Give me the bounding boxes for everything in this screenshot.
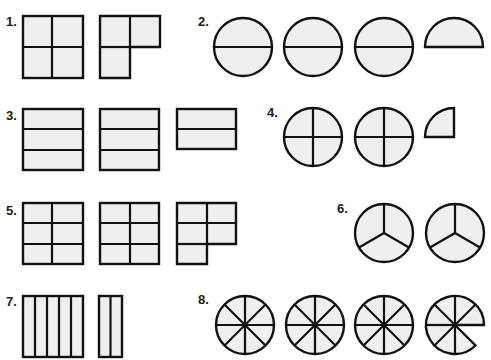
- problem-6-circle-thirds-1: [355, 204, 413, 262]
- problem-8-seven-eighths: [426, 296, 484, 354]
- problem-8-circle-eighths-3: [355, 296, 413, 354]
- problem-1-three-fourths: [100, 16, 160, 78]
- problem-3-two-thirds: [177, 109, 236, 149]
- problem-3-rect-thirds-1: [23, 109, 83, 170]
- problem-5-square-sixths-2: [100, 203, 159, 264]
- problem-5-square-sixths-1: [23, 203, 83, 264]
- fraction-worksheet: [0, 0, 491, 360]
- problem-4-circle-fourths-2: [355, 108, 413, 166]
- problem-8-circle-eighths-2: [286, 296, 344, 354]
- problem-7-rect-fifths: [23, 296, 83, 357]
- problem-6-circle-thirds-2: [426, 204, 484, 262]
- problem-5-five-sixths: [177, 203, 236, 264]
- problem-2-circle-halves-3: [355, 18, 413, 76]
- problem-4-quarter-circle: [425, 108, 454, 137]
- problem-4-circle-fourths-1: [284, 108, 342, 166]
- problem-1-whole-square: [23, 16, 83, 78]
- problem-2-circle-halves-2: [284, 18, 342, 76]
- problem-2-half-circle: [425, 18, 483, 47]
- problem-2-circle-halves-1: [214, 18, 272, 76]
- problem-8-circle-eighths-1: [216, 296, 274, 354]
- problem-3-rect-thirds-2: [100, 109, 159, 170]
- problem-7-two-fifths: [99, 296, 122, 357]
